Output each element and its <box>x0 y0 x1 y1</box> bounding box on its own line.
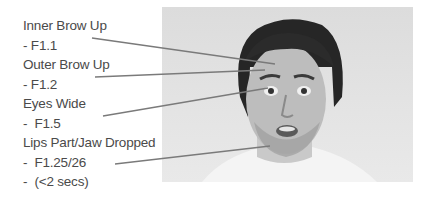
label-eyes-wide: Eyes Wide <box>23 94 155 114</box>
label-outer-brow-up: Outer Brow Up <box>23 55 155 75</box>
code-lips-part-jaw-dropped: - F1.25/26 <box>23 153 155 173</box>
code-eyes-wide: - F1.5 <box>23 114 155 134</box>
code-outer-brow-up: - F1.2 <box>23 75 155 95</box>
note-duration: - (<2 secs) <box>23 172 155 192</box>
code-inner-brow-up: - F1.1 <box>23 36 155 56</box>
label-inner-brow-up: Inner Brow Up <box>23 16 155 36</box>
annotation-labels: Inner Brow Up - F1.1 Outer Brow Up - F1.… <box>23 16 155 192</box>
label-lips-part-jaw-dropped: Lips Part/Jaw Dropped <box>23 133 155 153</box>
